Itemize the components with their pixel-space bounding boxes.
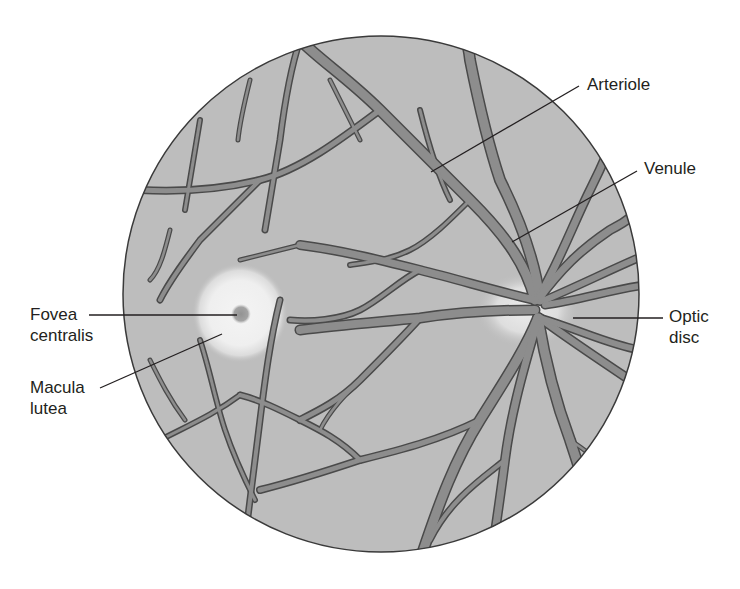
macula-lutea-label: Macula lutea [30,377,85,419]
fovea-label-line1: Fovea [30,304,93,325]
macula-label-line2: lutea [30,398,85,419]
fovea-centralis-label: Fovea centralis [30,304,93,346]
venule-label: Venule [644,158,696,179]
optic-disc-label-line1: Optic [669,306,709,327]
optic-disc-label: Optic disc [669,306,709,348]
optic-disc-label-line2: disc [669,327,709,348]
macula-label-line1: Macula [30,377,85,398]
fovea-centralis [231,304,251,324]
fovea-label-line2: centralis [30,325,93,346]
arteriole-label: Arteriole [587,74,650,95]
